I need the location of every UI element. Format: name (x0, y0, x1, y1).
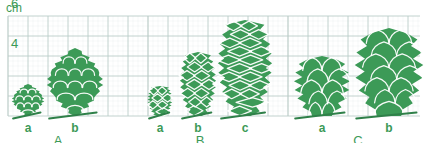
specimen-label-Ab: b (71, 121, 78, 135)
specimen-label-Bc: c (242, 121, 249, 135)
axis-tick-label-6: 6 (11, 0, 18, 11)
specimen-label-Ba: a (157, 121, 164, 135)
group-label-B: B (196, 133, 205, 143)
specimen-label-Cb: b (385, 121, 392, 135)
specimen-label-Ca: a (319, 121, 326, 135)
specimen-label-Aa: a (25, 121, 32, 135)
cone-size-figure: cm64abAabcBabC (0, 0, 435, 143)
group-label-C: C (353, 133, 362, 143)
axis-tick-label-4: 4 (11, 36, 18, 51)
group-label-A: A (54, 133, 63, 143)
